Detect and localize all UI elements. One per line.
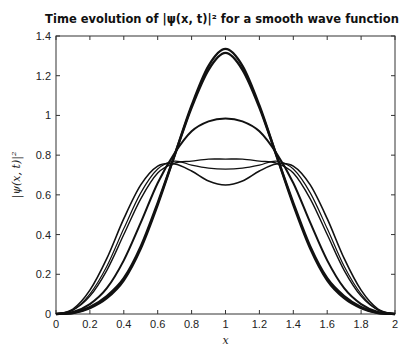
series-line-t5 [56,163,395,314]
y-tick-label: 0.2 [36,268,51,280]
y-tick-label: 1.4 [36,30,51,42]
series-line-t1 [56,53,395,314]
series-line-t3 [56,159,395,314]
x-tick-label: 1.8 [353,318,368,330]
x-tick-label: 0.6 [150,318,165,330]
y-tick-label: 0.8 [36,149,51,161]
series-line-t2 [56,118,395,314]
line-chart: 00.20.40.60.811.21.41.61.8200.20.40.60.8… [0,0,414,350]
y-tick-label: 1.2 [36,70,51,82]
y-tick-label: 0.6 [36,189,51,201]
y-axis-label: |ψ(x, t)|² [10,152,24,199]
x-tick-label: 0.2 [82,318,97,330]
x-tick-label: 0.8 [184,318,199,330]
y-tick-label: 0.4 [36,229,51,241]
series-line-t0 [56,49,395,314]
series-line-t4 [56,161,395,314]
x-tick-label: 1.6 [320,318,335,330]
x-tick-label: 2 [392,318,398,330]
x-axis-label: x [222,334,229,347]
y-tick-label: 1 [45,109,51,121]
plot-frame [56,36,395,314]
x-tick-label: 1 [222,318,228,330]
x-tick-label: 0.4 [116,318,131,330]
x-tick-label: 1.2 [252,318,267,330]
y-tick-label: 0 [45,308,51,320]
x-tick-label: 1.4 [286,318,301,330]
x-tick-label: 0 [53,318,59,330]
